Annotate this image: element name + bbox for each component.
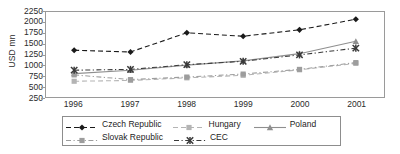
legend-marker-icon — [172, 119, 206, 130]
x-axis-tick-label: 1997 — [107, 100, 153, 109]
plot-area — [45, 11, 385, 98]
legend-item-slovak-republic[interactable]: Slovak Republic — [65, 131, 163, 144]
series-hungary — [72, 61, 359, 84]
data-point — [296, 27, 302, 33]
series-poland — [71, 38, 359, 76]
series-lines — [46, 12, 384, 97]
legend-item-label: Poland — [290, 120, 316, 129]
y-axis-tick-mark — [41, 98, 45, 99]
data-point — [127, 49, 133, 55]
data-point — [240, 33, 246, 39]
data-point — [128, 77, 133, 82]
x-axis-tick-label: 1996 — [50, 100, 96, 109]
series-cec — [71, 45, 359, 74]
data-point — [72, 79, 77, 84]
y-axis-tick-label: 500 — [3, 83, 43, 92]
x-axis-tick-label: 2001 — [334, 100, 380, 109]
y-axis-tick-label: 1250 — [3, 50, 43, 59]
y-axis-tick-label: 2250 — [3, 7, 43, 16]
series-line — [74, 63, 356, 81]
legend-marker-icon — [253, 119, 287, 130]
chart-legend: Czech RepublicHungaryPolandSlovak Republ… — [62, 116, 341, 146]
data-point — [353, 60, 358, 65]
legend-row: Slovak RepublicCEC — [65, 131, 338, 144]
legend-item-label: CEC — [210, 133, 228, 142]
legend-item-poland[interactable]: Poland — [253, 118, 316, 131]
x-axis-tick-label: 1998 — [164, 100, 210, 109]
series-czech-republic — [71, 16, 359, 55]
data-point — [353, 16, 359, 22]
series-line — [74, 41, 356, 73]
legend-row: Czech RepublicHungaryPoland — [65, 118, 338, 131]
data-point — [297, 67, 302, 72]
legend-item-hungary[interactable]: Hungary — [172, 118, 241, 131]
legend-item-label: Slovak Republic — [102, 133, 163, 142]
y-axis-tick-label: 250 — [3, 94, 43, 103]
data-point — [241, 72, 246, 77]
legend-item-label: Czech Republic — [102, 120, 162, 129]
x-axis-tick-label: 1999 — [220, 100, 266, 109]
x-axis-tick-label: 2000 — [277, 100, 323, 109]
legend-marker-icon — [65, 119, 99, 130]
y-axis-tick-label: 2000 — [3, 17, 43, 26]
legend-marker-icon — [173, 132, 207, 143]
legend-item-cec[interactable]: CEC — [173, 131, 228, 144]
series-line — [74, 19, 356, 52]
legend-item-czech-republic[interactable]: Czech Republic — [65, 118, 162, 131]
y-axis-tick-label: 1000 — [3, 61, 43, 70]
data-point — [184, 30, 190, 36]
y-axis-tick-label: 1500 — [3, 39, 43, 48]
chart-figure: USD mn 225020001750150012501000750500250… — [0, 0, 400, 154]
legend-item-label: Hungary — [209, 120, 241, 129]
data-point — [71, 47, 77, 53]
legend-marker-icon — [65, 132, 99, 143]
y-axis-tick-label: 1750 — [3, 28, 43, 37]
data-point — [353, 38, 359, 44]
data-point — [184, 74, 189, 79]
y-axis-tick-label: 750 — [3, 72, 43, 81]
